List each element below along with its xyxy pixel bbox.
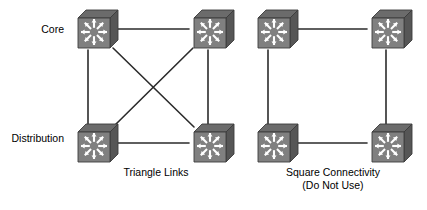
multilayer-switch-icon[interactable] xyxy=(72,120,120,166)
multilayer-switch-icon[interactable] xyxy=(188,6,236,52)
multilayer-switch-icon[interactable] xyxy=(366,6,414,52)
caption-triangle-links: Triangle Links xyxy=(96,166,216,179)
row-label-distribution: Distribution xyxy=(0,133,64,144)
multilayer-switch-icon[interactable] xyxy=(72,6,120,52)
multilayer-switch-icon[interactable] xyxy=(252,6,300,52)
multilayer-switch-icon[interactable] xyxy=(366,120,414,166)
multilayer-switch-icon[interactable] xyxy=(252,120,300,166)
row-label-core: Core xyxy=(0,24,64,35)
caption-line-primary: Square Connectivity xyxy=(263,166,403,179)
caption-line-primary: Triangle Links xyxy=(96,166,216,179)
caption-square-connectivity: Square Connectivity (Do Not Use) xyxy=(263,166,403,192)
network-diagram-canvas: Core Distribution Triangle Links Square … xyxy=(0,0,427,210)
caption-line-note: (Do Not Use) xyxy=(263,179,403,192)
multilayer-switch-icon[interactable] xyxy=(188,120,236,166)
